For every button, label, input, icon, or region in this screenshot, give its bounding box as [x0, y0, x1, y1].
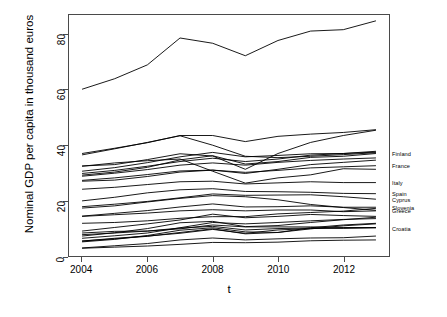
series-lines-group	[69, 15, 389, 256]
series-line	[82, 240, 376, 248]
x-axis-tick	[344, 257, 345, 262]
series-line	[82, 166, 376, 181]
series-line	[82, 21, 376, 89]
series-line	[82, 181, 376, 189]
series-label-finland: Finland	[392, 151, 411, 157]
y-axis-tick-label: 20	[56, 201, 67, 212]
chart-canvas: 020406080 Nominal GDP per capita in thou…	[0, 0, 447, 317]
series-label-france: France	[392, 163, 410, 169]
y-axis-tick-label: 80	[56, 34, 67, 45]
series-label-group: FinlandFranceItalySpainCyprusSloveniaGre…	[392, 14, 447, 257]
series-label-greece: Greece	[392, 208, 411, 214]
y-axis-tick-label: 60	[56, 89, 67, 100]
x-axis-tick-label: 2004	[70, 264, 92, 275]
y-axis-tick-label: 40	[56, 145, 67, 156]
x-axis-tick	[81, 257, 82, 262]
x-axis: 20042006200820102012	[68, 257, 390, 271]
x-axis-tick-label: 2008	[201, 264, 223, 275]
x-axis-tick	[147, 257, 148, 262]
plot-area	[68, 14, 390, 257]
series-label-cyprus: Cyprus	[392, 197, 410, 203]
y-axis-tick-label: 0	[56, 257, 67, 263]
series-label-croatia: Croatia	[392, 226, 411, 232]
series-line	[82, 130, 376, 154]
x-axis-tick	[278, 257, 279, 262]
x-axis-tick-label: 2010	[267, 264, 289, 275]
x-axis-tick	[213, 257, 214, 262]
y-axis-title: Nominal GDP per capita in thousand euros	[23, 0, 35, 249]
x-axis-title: t	[68, 283, 390, 295]
x-axis-tick-label: 2006	[136, 264, 158, 275]
x-axis-tick-label: 2012	[333, 264, 355, 275]
y-axis: 020406080	[54, 14, 68, 257]
series-label-italy: Italy	[392, 180, 403, 186]
